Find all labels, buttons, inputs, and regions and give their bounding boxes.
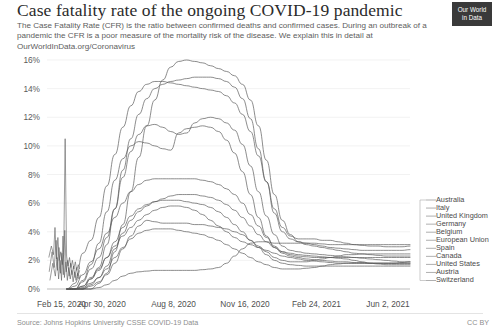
license-note[interactable]: CC BY: [467, 318, 489, 327]
y-axis-tick-label: 8%: [0, 170, 40, 180]
footer-divider: [17, 313, 483, 314]
logo-line-1: Our World: [458, 6, 487, 14]
chart-subtitle: The Case Fatality Rate (CFR) is the rati…: [17, 21, 445, 52]
y-axis-tick-label: 10%: [0, 141, 40, 151]
owid-logo[interactable]: Our World in Data: [452, 2, 492, 26]
y-axis-tick-label: 12%: [0, 112, 40, 122]
x-axis-tick-label: Apr 30, 2020: [78, 299, 126, 309]
x-axis-tick-label: Jun 2, 2021: [366, 299, 409, 309]
series-line[interactable]: [67, 206, 410, 289]
legend-bracket: [420, 200, 426, 281]
series-line[interactable]: [67, 229, 410, 289]
y-axis-tick-label: 6%: [0, 198, 40, 208]
x-axis-tick-label: Feb 24, 2021: [292, 299, 341, 309]
series-line[interactable]: [67, 242, 410, 289]
y-axis-tick-label: 14%: [0, 84, 40, 94]
y-axis-tick-label: 16%: [0, 55, 40, 65]
logo-line-2: in Data: [462, 14, 482, 22]
series-line[interactable]: [67, 60, 410, 289]
y-axis-tick-label: 0%: [0, 284, 40, 294]
x-axis-tick-label: Nov 16, 2020: [220, 299, 269, 309]
page-title: Case fatality rate of the ongoing COVID-…: [17, 1, 437, 20]
y-axis-tick-label: 4%: [0, 227, 40, 237]
legend-connector-lines: [408, 196, 438, 288]
source-note: Source: Johns Hopkins University CSSE CO…: [17, 318, 198, 327]
y-axis-tick-label: 2%: [0, 255, 40, 265]
chart-page: Case fatality rate of the ongoing COVID-…: [0, 0, 500, 334]
series-line[interactable]: [67, 126, 410, 289]
chart-legend: AustraliaItalyUnited KingdomGermanyBelgi…: [436, 196, 500, 285]
legend-item[interactable]: Switzerland: [436, 276, 500, 284]
x-axis-tick-label: Aug 8, 2020: [151, 299, 196, 309]
